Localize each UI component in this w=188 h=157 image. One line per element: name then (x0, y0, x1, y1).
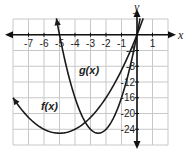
x-tick-label: -4 (71, 38, 80, 49)
y-tick-label: -20 (121, 108, 136, 119)
series-label: g(x) (78, 64, 100, 76)
x-tick-label: -3 (86, 38, 95, 49)
x-tick-label: -7 (24, 38, 33, 49)
arrow-left-icon (5, 31, 13, 38)
y-axis-label: y (133, 0, 140, 14)
chart: f(x)g(x)-7-6-5-4-3-2-11-4-8-12-16-20-24x… (0, 0, 188, 157)
y-tick-label: -16 (121, 92, 136, 103)
y-tick-label: -12 (121, 77, 136, 88)
arrow-right-icon (168, 31, 176, 38)
labels: f(x)g(x)-7-6-5-4-3-2-11-4-8-12-16-20-24x… (24, 0, 184, 135)
x-tick-label: -5 (55, 38, 64, 49)
y-tick-label: -8 (126, 61, 135, 72)
x-axis-label: x (177, 28, 184, 42)
x-tick-label: 1 (150, 38, 156, 49)
x-tick-label: -2 (102, 38, 111, 49)
x-tick-label: -6 (40, 38, 49, 49)
y-tick-label: -24 (121, 124, 136, 135)
arrow-icon (13, 98, 20, 106)
x-tick-label: -1 (117, 38, 126, 49)
series-label: f(x) (41, 100, 58, 112)
y-tick-label: -4 (126, 45, 135, 56)
